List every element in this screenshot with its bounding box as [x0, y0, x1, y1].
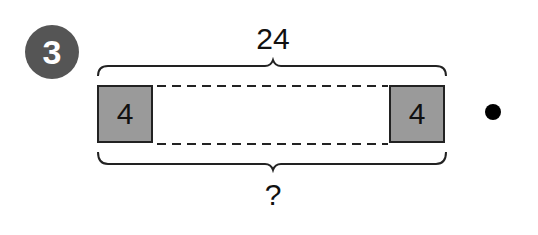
- right-box: 4: [389, 85, 445, 143]
- unknown-length-label: ?: [243, 180, 303, 210]
- bottom-brace: [98, 152, 446, 170]
- top-brace: [98, 60, 446, 76]
- left-box-value: 4: [117, 97, 134, 131]
- right-box-value: 4: [409, 97, 426, 131]
- left-box: 4: [97, 85, 153, 143]
- bullet-dot-icon: [485, 104, 501, 120]
